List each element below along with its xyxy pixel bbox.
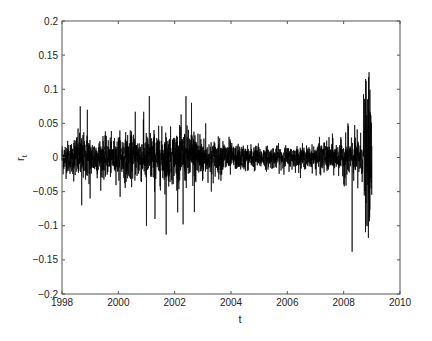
x-tick-label: 2002 xyxy=(164,297,187,308)
plot-area xyxy=(62,21,400,294)
returns-time-series-chart: 1998200020022004200620082010 −0.2−0.15−0… xyxy=(0,0,432,341)
y-tick-label: −0.2 xyxy=(38,289,58,300)
x-tick-label: 2000 xyxy=(107,297,130,308)
y-tick-label: 0.05 xyxy=(39,118,59,129)
y-axis-label: rt xyxy=(14,154,29,161)
x-tick-label: 2004 xyxy=(220,297,243,308)
x-axis-label: t xyxy=(238,313,241,325)
y-tick-label: −0.05 xyxy=(33,186,59,197)
y-tick-label: 0.15 xyxy=(39,50,59,61)
y-tick-label: 0 xyxy=(52,152,58,163)
y-tick-label: −0.15 xyxy=(33,254,59,265)
x-tick-label: 2006 xyxy=(276,297,299,308)
x-tick-label: 2008 xyxy=(333,297,356,308)
y-tick-label: 0.2 xyxy=(44,16,58,27)
y-tick-label: 0.1 xyxy=(44,84,58,95)
y-tick-label: −0.1 xyxy=(38,220,58,231)
x-tick-label: 2010 xyxy=(389,297,412,308)
